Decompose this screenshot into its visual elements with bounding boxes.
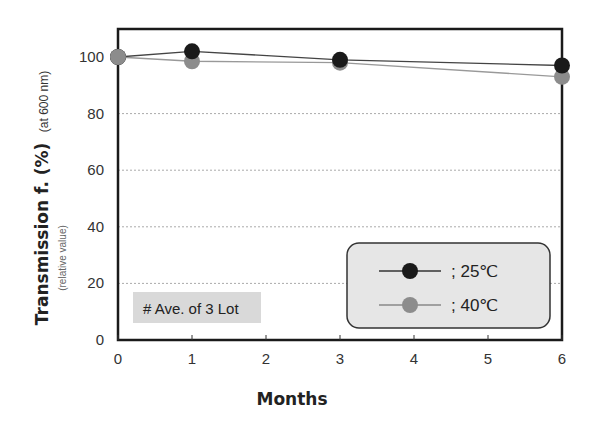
y-tick-label: 20	[87, 274, 104, 291]
legend-label-40c: ; 40℃	[451, 296, 498, 315]
y-axis-subtitle: (relative value)	[57, 225, 68, 291]
annotation-note: # Ave. of 3 Lot	[133, 292, 261, 323]
y-tick-label: 60	[87, 161, 104, 178]
y-tick-label: 80	[87, 105, 104, 122]
annotation-text: # Ave. of 3 Lot	[143, 300, 239, 317]
y-tick-label: 40	[87, 218, 104, 235]
data-point-40c	[110, 49, 126, 65]
x-tick-label: 1	[188, 350, 196, 367]
data-point-25c	[554, 57, 570, 73]
legend-box	[347, 243, 550, 328]
x-tick-label: 6	[558, 350, 566, 367]
x-tick-label: 0	[114, 350, 122, 367]
y-tick-label: 100	[79, 48, 104, 65]
y-axis-ticks: 020406080100	[79, 48, 104, 348]
y-axis-title: Transmission f. (%) (at 600 nm)	[32, 71, 52, 325]
chart: 0123456 020406080100 # Ave. of 3 Lot ; 2…	[0, 0, 595, 424]
data-series	[110, 43, 570, 84]
legend-marker-gray-circle-icon	[402, 297, 418, 313]
x-axis-title: Months	[256, 389, 327, 409]
legend: ; 25℃ ; 40℃	[347, 243, 550, 328]
data-point-25c	[184, 43, 200, 59]
x-tick-label: 2	[262, 350, 270, 367]
y-axis-title-main: Transmission f. (%)	[32, 143, 52, 326]
legend-label-25c: ; 25℃	[451, 262, 498, 281]
y-axis-title-suffix: (at 600 nm)	[37, 71, 51, 132]
legend-marker-dark-circle-icon	[402, 263, 418, 279]
x-tick-label: 3	[336, 350, 344, 367]
y-tick-label: 0	[96, 331, 104, 348]
svg-text:Transmission f. (%) (at: Transmission f. (%) (at 600 nm)	[32, 71, 52, 325]
data-point-25c	[332, 52, 348, 68]
x-tick-label: 5	[484, 350, 492, 367]
x-tick-label: 4	[410, 350, 418, 367]
